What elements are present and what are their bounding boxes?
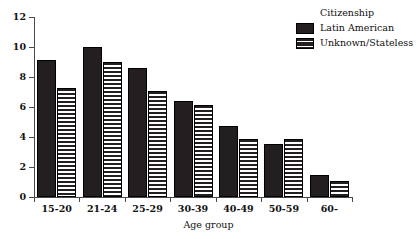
bar-50-59-latin-american [264, 144, 283, 197]
bar-chart: 024681012 15-2021-2425-2930-3940-4950-59… [0, 0, 417, 239]
x-axis-line [34, 197, 352, 198]
bar-30-39-latin-american [174, 101, 193, 197]
legend-item-latin-american: Latin American [296, 23, 417, 34]
legend-label-latin-american: Latin American [320, 23, 394, 33]
y-axis-tick-label: 12 [0, 12, 26, 22]
legend: Citizenship Latin American Unknown/State… [296, 8, 417, 53]
x-axis-tick [261, 197, 262, 202]
bar-15-20-unknown-stateless [57, 88, 76, 198]
y-axis-tick-label: 6 [0, 102, 26, 112]
bar-21-24-unknown-stateless [103, 62, 122, 197]
x-axis-tick [352, 197, 353, 202]
x-axis-tick [79, 197, 80, 202]
bar-15-20-latin-american [37, 60, 56, 197]
bar-25-29-latin-american [128, 68, 147, 197]
bar-30-39-unknown-stateless [194, 105, 213, 197]
x-axis-tick [170, 197, 171, 202]
x-axis-title: Age group [0, 220, 417, 230]
bar-60--unknown-stateless [330, 181, 349, 197]
x-axis-tick [34, 197, 35, 202]
x-axis-tick [307, 197, 308, 202]
legend-swatch-striped-icon [296, 38, 314, 49]
y-axis-tick-label: 2 [0, 162, 26, 172]
bar-40-49-latin-american [219, 126, 238, 197]
bar-60--latin-american [310, 175, 329, 198]
legend-item-unknown-stateless: Unknown/Stateless [296, 38, 417, 49]
legend-swatch-solid-icon [296, 23, 314, 34]
y-axis-tick-label: 10 [0, 42, 26, 52]
x-axis-tick-label: 60- [289, 204, 369, 214]
bar-21-24-latin-american [83, 47, 102, 197]
bar-25-29-unknown-stateless [148, 91, 167, 198]
x-axis-tick [216, 197, 217, 202]
x-axis-tick [125, 197, 126, 202]
y-axis-tick-label: 0 [0, 192, 26, 202]
legend-title: Citizenship [320, 8, 417, 18]
bar-40-49-unknown-stateless [239, 139, 258, 197]
bar-50-59-unknown-stateless [284, 139, 303, 198]
legend-label-unknown-stateless: Unknown/Stateless [320, 38, 413, 48]
y-axis-tick-label: 8 [0, 72, 26, 82]
y-axis-tick-label: 4 [0, 132, 26, 142]
